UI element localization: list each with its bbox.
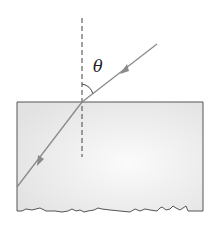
angle-label: θ — [93, 57, 103, 76]
incident-arrow-icon — [120, 64, 129, 74]
refraction-diagram: θ — [0, 0, 220, 229]
diagram-canvas — [0, 0, 220, 229]
angle-arc — [82, 84, 93, 94]
medium-block — [17, 102, 203, 212]
